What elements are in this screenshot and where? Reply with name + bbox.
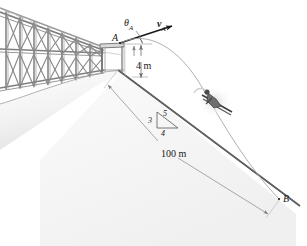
label-slope-rise: 3 [148, 117, 152, 125]
label-distance-100m: 100 m [161, 149, 186, 159]
label-point-b: B [283, 194, 289, 204]
skier-figure [194, 86, 233, 118]
label-velocity-a: vA [157, 19, 166, 32]
velocity-glyph: v [157, 18, 161, 29]
label-slope-run: 4 [161, 130, 165, 138]
label-slope-hypotenuse: 5 [163, 110, 167, 118]
launch-platform [100, 43, 124, 72]
ski-jump-figure: A θA vA 4 m 3 4 5 100 m B [0, 0, 307, 246]
velocity-subscript: A [162, 25, 166, 32]
label-point-a: A [112, 33, 118, 43]
theta-subscript: A [129, 24, 133, 31]
figure-canvas [0, 0, 307, 246]
label-height-4m: 4 m [136, 61, 151, 71]
label-theta-a: θA [124, 18, 133, 31]
